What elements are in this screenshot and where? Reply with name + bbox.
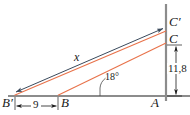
point-label-c-prime: C′ <box>169 15 181 28</box>
geometry-figure: B′ B A C C′ x 9 11,8 18° <box>0 0 190 115</box>
distance-x-label: x <box>74 51 79 63</box>
point-label-a: A <box>151 96 159 109</box>
distance-x-line <box>16 29 163 93</box>
figure-canvas <box>0 0 190 115</box>
point-label-b-prime: B′ <box>2 96 13 109</box>
point-label-b: B <box>61 96 69 109</box>
dimension-label-9: 9 <box>31 99 41 110</box>
sight-line-upper <box>15 31 167 95</box>
dimension-label-height: 11,8 <box>167 63 188 74</box>
point-label-c: C <box>169 32 178 45</box>
angle-label-18: 18° <box>105 72 119 82</box>
